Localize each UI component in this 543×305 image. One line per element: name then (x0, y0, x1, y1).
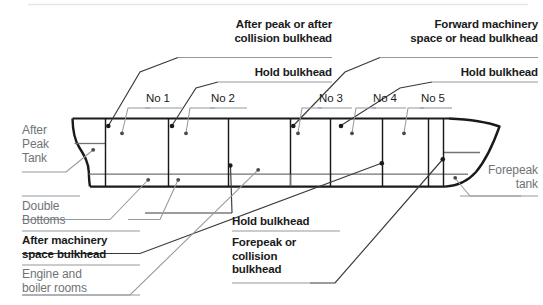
leader-dot-no4 (350, 131, 354, 135)
leader-dot-double-bottoms-b (176, 178, 180, 182)
leader-dot-double-bottoms-a (146, 178, 150, 182)
leader-dot-hold-bottom (228, 163, 233, 168)
leader-no1 (122, 108, 150, 133)
leader-dot-after-peak (106, 124, 111, 129)
callout-after-peak-bulkhead: After peak or after collision bulkhead (178, 18, 332, 45)
leader-no3 (298, 108, 322, 133)
callout-hold-bulkhead-right: Hold bulkhead (432, 66, 538, 80)
leader-dot-no1 (120, 131, 124, 135)
hold-label-no-2: No 2 (211, 92, 251, 106)
callout-forward-machinery-bulkhead: Forward machinery space or head bulkhead (380, 18, 538, 45)
leader-hold-bottom-seg (231, 166, 233, 214)
leader-dot-forepeak-tank (453, 176, 457, 180)
callout-hold-bulkhead-left: Hold bulkhead (218, 66, 332, 80)
leader-no5 (404, 108, 424, 133)
label-forepeak-tank: Forepeak tank (458, 163, 538, 191)
callout-after-machinery-bulkhead: After machinery space bulkhead (22, 234, 148, 261)
label-engine-and-boiler-rooms: Engine and boiler rooms (22, 267, 140, 295)
leader-dot-hold-right (339, 124, 344, 129)
leader-dot-no2 (184, 131, 188, 135)
leader-dot-no5 (402, 131, 406, 135)
leader-dot-no3 (296, 131, 300, 135)
label-double-bottoms: Double Bottoms (22, 199, 102, 227)
hold-label-no-1: No 1 (146, 92, 186, 106)
leader-no2 (186, 108, 215, 133)
leader-dot-forepeak-collision (441, 157, 446, 162)
hold-label-no-5: No 5 (421, 92, 461, 106)
callout-forepeak-or-collision-bulkhead: Forepeak or collision bulkhead (232, 236, 342, 277)
leader-dot-hold-left (170, 124, 175, 129)
leader-dot-forward-machinery (291, 124, 296, 129)
hold-label-no-4: No 4 (373, 92, 413, 106)
callout-hold-bulkhead-bottom: Hold bulkhead (232, 215, 352, 229)
hold-label-no-3: No 3 (319, 92, 359, 106)
leader-no4 (352, 108, 376, 133)
diagram-canvas: After peak or after collision bulkhead H… (0, 0, 543, 305)
leader-dot-engine-boiler (256, 168, 260, 172)
leader-dot-after-machinery (380, 161, 385, 166)
leader-dot-after-peak-tank (91, 148, 95, 152)
label-after-peak-tank: After Peak Tank (22, 123, 84, 165)
